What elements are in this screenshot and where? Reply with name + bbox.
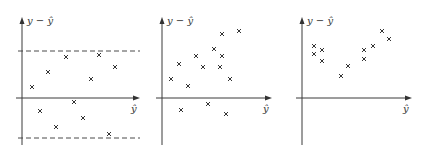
data-point-x-marker — [218, 65, 222, 69]
data-point-x-marker — [220, 54, 224, 58]
data-point-x-marker — [113, 65, 117, 69]
y-axis-arrow-icon — [20, 17, 25, 24]
data-point-x-marker — [30, 85, 34, 89]
data-point-x-marker — [194, 54, 198, 58]
data-point-x-marker — [220, 32, 224, 36]
data-point-x-marker — [89, 77, 93, 81]
y-axis-label: y − ŷ — [166, 15, 193, 26]
y-axis-arrow-icon — [160, 17, 165, 24]
data-point-x-marker — [346, 64, 350, 68]
data-point-x-marker — [224, 112, 228, 116]
data-point-x-marker — [339, 74, 343, 78]
data-point-x-marker — [46, 70, 50, 74]
data-point-x-marker — [212, 47, 216, 51]
data-point-x-marker — [237, 29, 241, 33]
data-point-x-marker — [312, 44, 316, 48]
data-point-x-marker — [81, 116, 85, 120]
data-point-x-marker — [387, 37, 391, 41]
data-point-x-marker — [206, 102, 210, 106]
panel-nonlinear-pattern: y − ŷŷ — [296, 15, 412, 145]
data-point-x-marker — [362, 48, 366, 52]
data-point-x-marker — [320, 59, 324, 63]
data-point-x-marker — [371, 44, 375, 48]
data-point-x-marker — [97, 53, 101, 57]
data-point-x-marker — [72, 100, 76, 104]
panel-constant-variance: y − ŷŷ — [16, 15, 140, 145]
x-axis-label: ŷ — [262, 103, 269, 114]
data-point-x-marker — [320, 48, 324, 52]
y-axis-label: y − ŷ — [306, 15, 333, 26]
data-point-x-marker — [186, 84, 190, 88]
data-point-x-marker — [64, 55, 68, 59]
data-point-x-marker — [228, 77, 232, 81]
data-point-x-marker — [54, 125, 58, 129]
panel-non-zero-mean: y − ŷŷ — [156, 15, 272, 145]
data-point-x-marker — [201, 65, 205, 69]
data-point-x-marker — [380, 29, 384, 33]
data-point-x-marker — [169, 77, 173, 81]
data-point-x-marker — [38, 109, 42, 113]
y-axis-arrow-icon — [300, 17, 305, 24]
data-point-x-marker — [312, 52, 316, 56]
x-axis-arrow-icon — [265, 96, 272, 101]
y-axis-label: y − ŷ — [26, 15, 53, 26]
data-point-x-marker — [177, 62, 181, 66]
data-point-x-marker — [179, 108, 183, 112]
x-axis-label: ŷ — [130, 103, 137, 114]
x-axis-label: ŷ — [402, 103, 409, 114]
data-point-x-marker — [362, 57, 366, 61]
data-point-x-marker — [107, 132, 111, 136]
residual-plots-figure: y − ŷŷy − ŷŷy − ŷŷ — [0, 0, 425, 153]
x-axis-arrow-icon — [133, 96, 140, 101]
x-axis-arrow-icon — [405, 96, 412, 101]
